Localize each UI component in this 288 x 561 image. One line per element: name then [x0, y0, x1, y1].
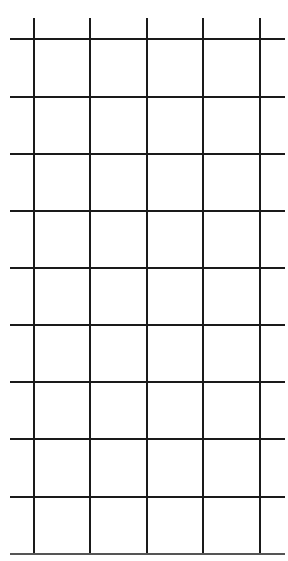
- grid-vertical-line: [202, 18, 204, 553]
- grid-horizontal-line: [10, 553, 285, 555]
- grid-horizontal-line: [10, 38, 285, 40]
- grid-vertical-line: [146, 18, 148, 553]
- grid-horizontal-line: [10, 438, 285, 440]
- grid-horizontal-line: [10, 324, 285, 326]
- grid-horizontal-line: [10, 153, 285, 155]
- grid-horizontal-line: [10, 96, 285, 98]
- grid-vertical-line: [33, 18, 35, 553]
- grid-vertical-line: [89, 18, 91, 553]
- grid-horizontal-line: [10, 210, 285, 212]
- grid-horizontal-line: [10, 381, 285, 383]
- grid-vertical-line: [259, 18, 261, 553]
- grid-horizontal-line: [10, 267, 285, 269]
- grid-horizontal-line: [10, 496, 285, 498]
- grid-canvas: [0, 0, 288, 561]
